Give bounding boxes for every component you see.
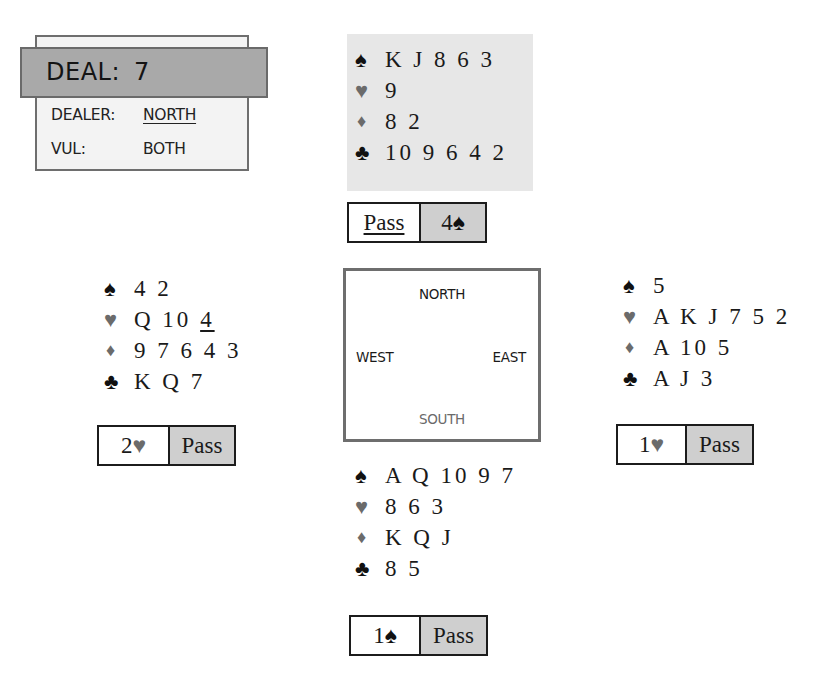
west-spades: ♠4 2 <box>104 273 242 304</box>
east-bid-1-level: 1 <box>639 432 651 458</box>
diamond-icon: ♦ <box>355 527 385 548</box>
north-bid-2-level: 4 <box>441 210 453 236</box>
north-diamonds-cards: 8 2 <box>385 109 423 135</box>
west-bid-2: Pass <box>170 427 234 464</box>
heart-icon: ♥ <box>623 304 653 330</box>
deal-label: DEAL: <box>46 58 120 86</box>
diamond-icon: ♦ <box>355 111 385 132</box>
west-diamonds-cards: 9 7 6 4 3 <box>134 338 242 364</box>
south-spades: ♠A Q 10 9 7 <box>355 460 516 491</box>
west-bidding-box: 2♥ Pass <box>97 425 236 466</box>
west-clubs-cards: K Q 7 <box>134 369 205 395</box>
east-bid-1: 1♥ <box>618 426 687 463</box>
heart-icon: ♥ <box>132 433 146 459</box>
west-hearts: ♥Q 10 4 <box>104 304 242 335</box>
east-hearts: ♥A K J 7 5 2 <box>623 301 790 332</box>
west-bid-1: 2♥ <box>99 427 170 464</box>
north-spades: ♠K J 8 6 3 <box>355 44 507 75</box>
south-bid-2-text: Pass <box>433 623 474 649</box>
north-bid-1-text: Pass <box>364 210 405 236</box>
north-clubs-cards: 10 9 6 4 2 <box>385 140 507 166</box>
south-clubs: ♣8 5 <box>355 553 516 584</box>
east-diamonds-cards: A 10 5 <box>653 335 732 361</box>
north-clubs: ♣10 9 6 4 2 <box>355 137 507 168</box>
club-icon: ♣ <box>355 556 385 582</box>
north-bid-1: Pass <box>349 204 421 241</box>
east-bid-2: Pass <box>687 426 752 463</box>
east-clubs: ♣A J 3 <box>623 363 790 394</box>
deal-banner: DEAL:7 <box>20 47 268 98</box>
south-hearts: ♥8 6 3 <box>355 491 516 522</box>
east-hearts-cards: A K J 7 5 2 <box>653 304 790 330</box>
vulnerability-row: VUL: BOTH <box>51 140 86 158</box>
west-clubs: ♣K Q 7 <box>104 366 242 397</box>
spade-icon: ♠ <box>355 47 385 73</box>
compass-table: NORTH WEST EAST SOUTH <box>343 268 541 442</box>
west-hearts-led-card: 4 <box>200 307 215 333</box>
compass-south: SOUTH <box>346 411 538 427</box>
south-spades-cards: A Q 10 9 7 <box>385 463 516 489</box>
east-diamonds: ♦A 10 5 <box>623 332 790 363</box>
south-clubs-cards: 8 5 <box>385 556 423 582</box>
east-hand: ♠5 ♥A K J 7 5 2 ♦A 10 5 ♣A J 3 <box>623 270 790 394</box>
vul-label: VUL: <box>51 140 86 158</box>
south-bid-1-level: 1 <box>373 623 385 649</box>
compass-east: EAST <box>493 349 526 365</box>
south-hand: ♠A Q 10 9 7 ♥8 6 3 ♦K Q J ♣8 5 <box>355 460 516 584</box>
heart-icon: ♥ <box>355 494 385 520</box>
west-bid-2-text: Pass <box>182 433 223 459</box>
north-hand: ♠K J 8 6 3 ♥9 ♦8 2 ♣10 9 6 4 2 <box>355 44 507 168</box>
club-icon: ♣ <box>623 366 653 392</box>
vul-value: BOTH <box>143 140 186 158</box>
dealer-label: DEALER: <box>51 106 115 124</box>
south-bid-1: 1♠ <box>351 617 421 654</box>
south-diamonds: ♦K Q J <box>355 522 516 553</box>
north-bid-2: 4♠ <box>421 204 485 241</box>
west-diamonds: ♦9 7 6 4 3 <box>104 335 242 366</box>
spade-icon: ♠ <box>104 276 134 302</box>
west-bid-1-level: 2 <box>121 433 133 459</box>
west-hand: ♠4 2 ♥Q 10 4 ♦9 7 6 4 3 ♣K Q 7 <box>104 273 242 397</box>
east-bid-2-text: Pass <box>699 432 740 458</box>
heart-icon: ♥ <box>355 78 385 104</box>
spade-icon: ♠ <box>385 623 397 649</box>
diamond-icon: ♦ <box>623 337 653 358</box>
west-hearts-cards: Q 10 <box>134 307 200 333</box>
west-spades-cards: 4 2 <box>134 276 172 302</box>
north-spades-cards: K J 8 6 3 <box>385 47 495 73</box>
dealer-value: NORTH <box>143 106 196 124</box>
deal-number: 7 <box>134 58 150 86</box>
club-icon: ♣ <box>355 140 385 166</box>
heart-icon: ♥ <box>104 307 134 333</box>
diamond-icon: ♦ <box>104 340 134 361</box>
south-diamonds-cards: K Q J <box>385 525 454 551</box>
east-bidding-box: 1♥ Pass <box>616 424 754 465</box>
south-hearts-cards: 8 6 3 <box>385 494 446 520</box>
spade-icon: ♠ <box>453 210 465 236</box>
north-hearts-cards: 9 <box>385 78 400 104</box>
south-bid-2: Pass <box>421 617 486 654</box>
north-diamonds: ♦8 2 <box>355 106 507 137</box>
south-bidding-box: 1♠ Pass <box>349 615 488 656</box>
east-spades: ♠5 <box>623 270 790 301</box>
north-hearts: ♥9 <box>355 75 507 106</box>
spade-icon: ♠ <box>355 463 385 489</box>
heart-icon: ♥ <box>650 432 664 458</box>
spade-icon: ♠ <box>623 273 653 299</box>
east-spades-cards: 5 <box>653 273 668 299</box>
north-bidding-box: Pass 4♠ <box>347 202 487 243</box>
compass-north: NORTH <box>346 286 538 302</box>
compass-west: WEST <box>356 349 394 365</box>
east-clubs-cards: A J 3 <box>653 366 715 392</box>
club-icon: ♣ <box>104 369 134 395</box>
dealer-row: DEALER: NORTH <box>51 106 115 124</box>
